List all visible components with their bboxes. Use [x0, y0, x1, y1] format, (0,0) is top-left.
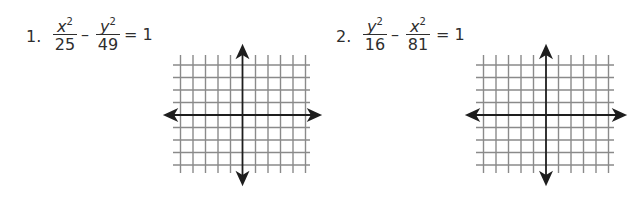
fraction-term-1: y2 16	[363, 12, 387, 54]
variable: x	[410, 17, 419, 36]
axes	[467, 46, 625, 184]
coordinate-grid-2	[460, 40, 630, 190]
numerator: x2	[406, 12, 430, 32]
grid-lines	[476, 55, 614, 173]
denominator: 16	[363, 35, 387, 54]
denominator: 81	[406, 35, 430, 54]
minus-operator: –	[391, 25, 399, 44]
numerator: y2	[363, 12, 387, 32]
problem-number: 2.	[336, 27, 351, 46]
exponent: 2	[420, 16, 426, 27]
fraction-term-2: x2 81	[406, 12, 430, 54]
grid-lines	[173, 55, 310, 173]
exponent: 2	[377, 16, 383, 27]
axes	[165, 46, 320, 184]
variable: y	[367, 17, 376, 36]
coordinate-grid-1	[160, 40, 330, 190]
